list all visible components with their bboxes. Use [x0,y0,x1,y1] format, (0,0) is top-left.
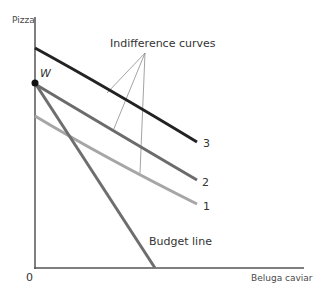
indifference-curves-annotation: Indifference curves [110,38,215,49]
budget-line [35,83,155,268]
indifference-curve-3 [35,48,197,142]
curve-2-label: 2 [202,177,209,188]
curve-1-label: 1 [203,201,210,212]
point-w-marker [32,80,39,87]
curve-3-label: 3 [203,138,210,149]
pointer-line-curve-2 [113,53,145,131]
indifference-diagram: Pizza W Indifference curves 3 2 1 Budget… [0,0,316,296]
y-axis-label: Pizza [12,16,35,25]
x-axis-label: Beluga caviar [251,274,313,283]
indifference-curve-1 [35,116,197,204]
pointer-line-curve-3 [107,53,145,93]
origin-label: 0 [26,272,33,283]
point-w-label: W [40,68,51,79]
budget-line-label: Budget line [149,236,212,247]
pointer-line-curve-1 [140,53,145,173]
